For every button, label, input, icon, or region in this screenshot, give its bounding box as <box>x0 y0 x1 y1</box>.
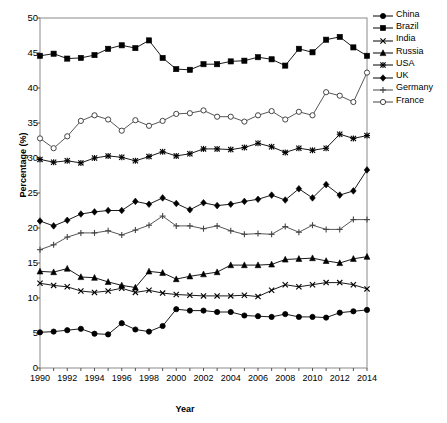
legend-label: France <box>394 96 424 105</box>
legend-item-france[interactable]: France <box>372 94 447 106</box>
data-point <box>65 328 70 333</box>
data-point <box>37 330 42 335</box>
legend-label: Brazil <box>394 22 419 31</box>
data-point <box>364 307 369 312</box>
data-point <box>310 50 315 55</box>
data-point <box>324 90 329 95</box>
data-point <box>269 109 274 114</box>
series-germany <box>37 213 370 253</box>
data-point <box>242 58 247 63</box>
data-point <box>255 55 260 60</box>
legend-marker-icon <box>372 57 394 69</box>
data-point <box>337 93 342 98</box>
series-uk <box>37 167 370 230</box>
data-point <box>37 136 42 141</box>
data-point <box>133 118 138 123</box>
data-point <box>364 254 370 260</box>
data-point <box>160 118 165 123</box>
legend-label: Russia <box>394 47 424 56</box>
legend-item-brazil[interactable]: Brazil <box>372 20 447 32</box>
data-point <box>92 113 97 118</box>
data-point <box>228 114 233 119</box>
data-point <box>296 109 301 114</box>
legend-marker-icon <box>372 70 394 82</box>
data-point <box>269 314 274 319</box>
data-point <box>146 329 151 334</box>
legend-item-uk[interactable]: UK <box>372 69 447 81</box>
data-point <box>214 269 220 275</box>
data-point <box>228 201 234 208</box>
data-point <box>106 117 111 122</box>
data-point <box>78 211 84 218</box>
data-point <box>283 117 288 122</box>
series-russia <box>37 254 370 291</box>
series-france <box>37 70 369 151</box>
data-point <box>228 59 233 64</box>
chart-figure: Percentage (%) 05101520253035404550 1990… <box>0 0 447 423</box>
chart-legend: ChinaBrazilIndiaRussiaUSAUKGermanyFrance <box>372 8 447 106</box>
data-point <box>215 62 220 67</box>
data-point <box>310 314 315 319</box>
data-point <box>146 123 151 128</box>
data-point <box>119 207 125 214</box>
series-india <box>37 280 369 299</box>
data-point <box>51 223 57 230</box>
data-point <box>324 315 329 320</box>
data-point <box>65 56 70 61</box>
legend-item-usa[interactable]: USA <box>372 57 447 69</box>
data-point <box>78 55 83 60</box>
data-point <box>174 111 179 116</box>
data-point <box>269 192 275 199</box>
data-point <box>296 314 301 319</box>
data-point <box>78 326 83 331</box>
data-point <box>64 217 70 224</box>
data-point <box>106 46 111 51</box>
series-line <box>40 216 367 250</box>
data-point <box>119 321 124 326</box>
data-point <box>51 146 56 151</box>
data-point <box>255 314 260 319</box>
data-point <box>201 108 206 113</box>
data-point <box>255 196 261 203</box>
legend-label: USA <box>394 59 415 68</box>
legend-marker-icon <box>372 20 394 32</box>
data-point <box>37 53 42 58</box>
data-point <box>106 332 111 337</box>
data-point <box>133 46 138 51</box>
data-point <box>282 197 288 204</box>
legend-item-russia[interactable]: Russia <box>372 45 447 57</box>
data-point <box>133 327 138 332</box>
data-point <box>201 62 206 67</box>
series-usa <box>37 131 370 166</box>
series-brazil <box>37 34 369 72</box>
data-point <box>364 53 369 58</box>
legend-item-india[interactable]: India <box>372 33 447 45</box>
data-point <box>201 308 206 313</box>
data-point <box>201 200 207 207</box>
data-point <box>351 309 356 314</box>
legend-item-china[interactable]: China <box>372 8 447 20</box>
data-point <box>105 207 111 214</box>
data-point <box>242 119 247 124</box>
data-point <box>310 113 315 118</box>
legend-label: India <box>394 34 416 43</box>
data-point <box>337 192 343 199</box>
data-point <box>92 53 97 58</box>
data-point <box>119 43 124 48</box>
legend-item-germany[interactable]: Germany <box>372 82 447 94</box>
legend-marker-icon <box>372 45 394 57</box>
data-point <box>296 186 302 193</box>
data-point <box>337 34 342 39</box>
series-line <box>40 283 367 297</box>
data-point <box>78 118 83 123</box>
legend-label: Germany <box>394 83 433 92</box>
data-point <box>146 38 151 43</box>
data-point <box>64 265 70 271</box>
data-point <box>324 37 329 42</box>
data-point <box>160 323 165 328</box>
data-point <box>242 198 248 205</box>
data-point <box>255 113 260 118</box>
data-point <box>160 195 166 202</box>
data-point <box>174 307 179 312</box>
series-line <box>40 170 367 226</box>
